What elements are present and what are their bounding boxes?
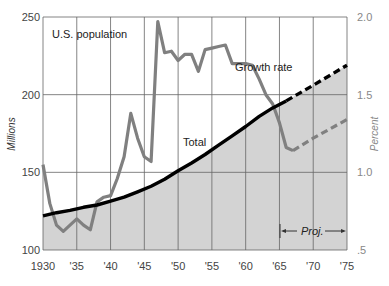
total-label: Total [183,136,206,148]
y-axis-label-right: Percent [369,116,380,152]
y-tick-label-right: 1.0 [357,166,372,178]
growth-rate-label: Growth rate [235,61,292,73]
x-tick-label: '55 [205,260,219,272]
population-chart: 1930'35'40'45'50'55'60'65'70'75100150200… [0,0,389,286]
x-tick-label: '40 [103,260,117,272]
y-axis-label-left: Millions [6,117,17,150]
x-tick-label: '70 [306,260,320,272]
x-tick-label: '45 [137,260,151,272]
y-tick-label-right: 1.5 [357,89,372,101]
y-tick-label-left: 250 [22,11,40,23]
y-tick-label-left: 200 [22,89,40,101]
x-tick-label: '50 [171,260,185,272]
chart-title: U.S. population [52,28,127,40]
x-tick-label: 1930 [31,260,55,272]
x-tick-label: '35 [70,260,84,272]
y-tick-label-right: 2.0 [357,11,372,23]
x-tick-label: '75 [340,260,354,272]
x-tick-label: '65 [272,260,286,272]
proj-label: Proj. [301,225,324,237]
y-tick-label-left: 150 [22,166,40,178]
y-tick-label-right: .5 [357,244,366,256]
x-tick-label: '60 [238,260,252,272]
y-tick-label-left: 100 [22,244,40,256]
